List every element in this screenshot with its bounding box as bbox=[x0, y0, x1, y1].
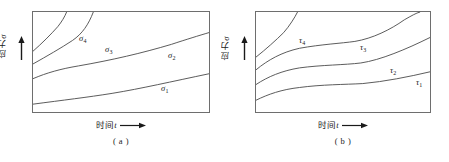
curves-svg-b bbox=[256, 12, 430, 112]
y-axis-label: 应力σ bbox=[222, 36, 236, 60]
curve-tau-3 bbox=[256, 12, 420, 70]
panel-caption-b: ( b ) bbox=[255, 136, 431, 146]
curve-label-sigma-2: σ2 bbox=[168, 51, 175, 60]
panel-caption-a: ( a ) bbox=[32, 136, 210, 146]
curve-sigma-1 bbox=[33, 74, 209, 104]
x-axis-text: 时间 bbox=[96, 120, 114, 130]
curve-label-sigma-1: σ1 bbox=[161, 84, 168, 93]
plot-area-a: σ1 σ2 σ3 σ4 bbox=[32, 11, 210, 113]
x-axis-arrow-icon bbox=[120, 121, 146, 128]
curve-tau-1 bbox=[256, 72, 430, 100]
panel-b: 应力σ τ1 τ2 τ3 τ4 时间t ( b ) bbox=[224, 0, 449, 162]
curve-sigma-4 bbox=[33, 12, 67, 51]
x-axis-text: 时间 bbox=[318, 120, 336, 130]
y-axis-text: 应力 bbox=[0, 39, 8, 58]
y-axis-arrow-icon bbox=[17, 36, 26, 60]
x-axis-symbol: t bbox=[114, 120, 116, 130]
x-axis-arrow-icon bbox=[342, 121, 368, 128]
y-axis-text: 应力 bbox=[221, 41, 231, 60]
y-axis-label: 应力σ bbox=[0, 34, 13, 58]
curve-label-tau-1: τ1 bbox=[416, 78, 422, 87]
y-axis-symbol: σ bbox=[221, 36, 231, 41]
curves-svg-a bbox=[33, 12, 209, 112]
plot-area-b: τ1 τ2 τ3 τ4 bbox=[255, 11, 431, 113]
x-axis-label: 时间t bbox=[32, 118, 210, 130]
curve-label-sigma-3: σ3 bbox=[105, 45, 112, 54]
curve-label-tau-4: τ4 bbox=[299, 36, 305, 45]
curve-label-sigma-4: σ4 bbox=[79, 34, 86, 43]
y-axis-symbol: σ bbox=[0, 34, 8, 39]
curve-sigma-2 bbox=[33, 33, 209, 79]
panel-a: 应力σ σ1 σ2 σ3 σ4 时间t ( a ) bbox=[0, 0, 225, 162]
curve-label-tau-3: τ3 bbox=[360, 43, 366, 52]
y-axis-arrow-icon bbox=[240, 36, 249, 60]
x-axis-label: 时间t bbox=[255, 118, 431, 130]
curve-label-tau-2: τ2 bbox=[390, 66, 396, 75]
figure-root: 应力σ σ1 σ2 σ3 σ4 时间t ( a ) bbox=[0, 0, 449, 162]
x-axis-symbol: t bbox=[336, 120, 338, 130]
